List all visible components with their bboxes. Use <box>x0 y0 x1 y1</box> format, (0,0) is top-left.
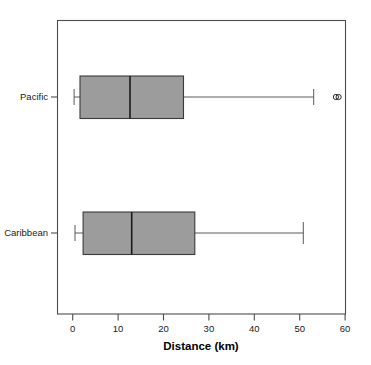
x-tick-label-60: 60 <box>340 323 351 334</box>
box-group-caribbean <box>75 212 303 255</box>
boxplot-figure: 0 10 20 30 40 50 60 Distance (km) Pacifi… <box>0 0 371 365</box>
box-pacific <box>80 76 184 119</box>
x-tick-label-0: 0 <box>70 323 75 334</box>
box-caribbean <box>83 212 195 255</box>
x-tick-label-20: 20 <box>158 323 169 334</box>
box-group-pacific <box>74 76 341 119</box>
boxplot-canvas: 0 10 20 30 40 50 60 Distance (km) Pacifi… <box>0 0 371 365</box>
x-axis-tick-labels: 0 10 20 30 40 50 60 <box>70 323 350 334</box>
x-tick-label-50: 50 <box>294 323 305 334</box>
x-tick-label-10: 10 <box>113 323 124 334</box>
plot-frame <box>58 21 346 315</box>
x-axis-title: Distance (km) <box>163 340 239 352</box>
y-label-caribbean: Caribbean <box>4 227 48 238</box>
x-tick-label-40: 40 <box>249 323 260 334</box>
x-axis-ticks <box>73 314 345 321</box>
y-axis-categories: Pacific Caribbean <box>4 91 57 238</box>
x-tick-label-30: 30 <box>204 323 215 334</box>
y-label-pacific: Pacific <box>20 91 48 102</box>
